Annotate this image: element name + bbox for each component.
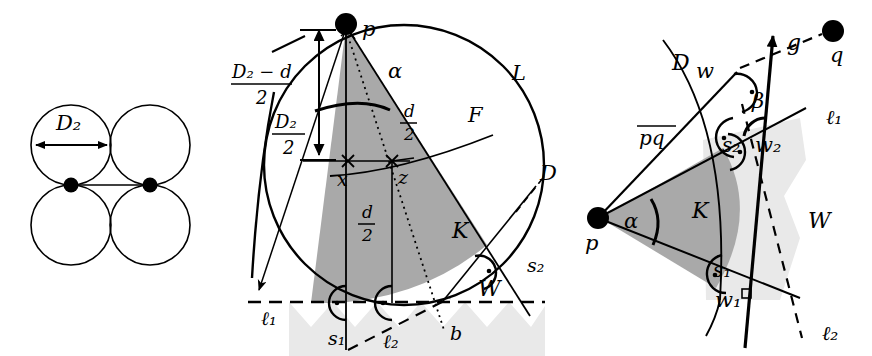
fraction-numerator: D₂ − d <box>231 61 292 82</box>
point-q <box>822 20 844 42</box>
label-W-right: W <box>808 208 833 233</box>
fraction-denominator: 2 <box>361 225 373 245</box>
apex-tick <box>272 36 305 52</box>
label-alpha-right: α <box>624 209 638 233</box>
label-s2: s₂ <box>527 254 544 276</box>
fraction-denominator: 2 <box>255 87 267 108</box>
label-l2: ℓ₂ <box>383 330 399 352</box>
label-x: x <box>337 168 348 190</box>
fraction-D2-over-2: D₂ 2 <box>272 111 305 158</box>
label-b: b <box>450 322 462 344</box>
tangency-node-right <box>143 178 158 193</box>
label-pq: pq <box>639 126 665 150</box>
label-l1-right: ℓ₁ <box>826 105 842 129</box>
dashed-pq-to-q <box>740 34 822 68</box>
fraction-denominator: 2 <box>403 124 415 144</box>
circle-top-right <box>110 105 190 185</box>
label-K-right: K <box>691 198 710 223</box>
label-W: W <box>478 276 503 301</box>
label-w: w <box>696 59 714 83</box>
fraction-numerator: d <box>404 101 415 121</box>
label-w1: w₁ <box>715 288 741 312</box>
label-D2: D₂ <box>55 111 81 135</box>
label-D-right: D <box>671 50 690 75</box>
circle-bottom-left <box>31 185 111 265</box>
label-w2: w₂ <box>755 133 781 157</box>
fraction-denominator: 2 <box>282 137 294 158</box>
label-alpha: α <box>388 59 402 83</box>
panel-left-four-circles: D₂ <box>31 105 190 265</box>
label-s1-right: s₁ <box>713 258 731 282</box>
label-z: z <box>397 166 409 188</box>
label-K: K <box>451 218 470 243</box>
fraction-numerator: d <box>362 202 373 222</box>
label-p-right: p <box>585 231 598 255</box>
panel-middle: F L s₁ s₂ b D ℓ₁ ℓ₂ <box>231 13 557 356</box>
label-l1: ℓ₁ <box>261 307 277 329</box>
tangency-node-left <box>64 178 79 193</box>
fraction-D2-minus-d-over-2: D₂ − d 2 <box>231 61 292 108</box>
label-l2-right: ℓ₂ <box>822 321 838 345</box>
circle-bottom-right <box>110 185 190 265</box>
label-s1: s₁ <box>328 327 345 349</box>
figure-canvas: D₂ F L s₁ s₂ b D <box>0 0 872 356</box>
label-pq-overline: pq <box>637 126 676 150</box>
point-p-right <box>587 207 609 229</box>
geometry-figure: D₂ F L s₁ s₂ b D <box>0 0 872 356</box>
panel-right: D s₂ s₁ pq q g ℓ₁ ℓ₂ p α <box>585 20 844 348</box>
label-g: g <box>787 30 801 55</box>
label-F: F <box>467 103 484 127</box>
label-D: D <box>539 161 557 185</box>
fraction-numerator: D₂ <box>274 111 297 132</box>
label-L: L <box>511 61 526 85</box>
label-q: q <box>830 43 843 67</box>
label-p: p <box>362 17 375 41</box>
